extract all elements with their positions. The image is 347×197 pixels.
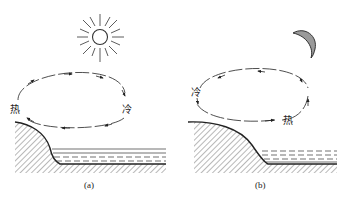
circulation-loop-a (18, 72, 125, 128)
land-b (188, 122, 337, 173)
sea-a (52, 149, 166, 161)
panel-a: 热 冷 (a) (10, 14, 166, 190)
sun-icon (77, 14, 124, 62)
land-a (15, 122, 166, 173)
caption-a: (a) (84, 180, 94, 190)
label-hot-a: 热 (10, 103, 20, 115)
circulation-loop-b (197, 68, 308, 121)
label-cold-b: 冷 (191, 86, 201, 98)
sea-land-breeze-diagram: 热 冷 (a) (0, 0, 347, 197)
caption-b: (b) (255, 180, 266, 190)
sea-b (262, 151, 337, 162)
label-hot-b: 热 (283, 114, 293, 126)
moon-icon (293, 31, 315, 58)
label-cold-a: 冷 (122, 103, 132, 115)
panel-b: 冷 热 (b) (188, 31, 337, 190)
